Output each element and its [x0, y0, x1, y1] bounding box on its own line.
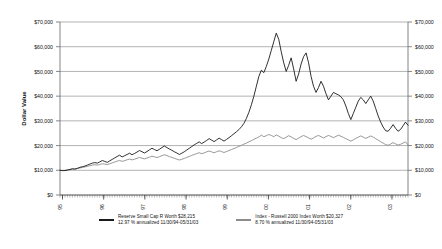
- series-line: [60, 33, 408, 171]
- legend-index-annualized: 8.70 % annualized 11/30/94-05/31/03: [255, 220, 343, 226]
- x-tick-label: 97: [140, 204, 146, 210]
- y-tick-label-left: $60,000: [34, 44, 53, 50]
- axis-ticks: [56, 22, 412, 200]
- legend-swatch-index: [236, 219, 251, 221]
- y-tick-label-right: $30,000: [415, 118, 434, 124]
- x-tick-label: 95: [57, 204, 63, 210]
- legend-text-index: Index - Russell 2000 Index Worth $20,327…: [255, 214, 343, 226]
- y-tick-label-left: $30,000: [34, 118, 53, 124]
- y-tick-label-left: $20,000: [34, 143, 53, 149]
- x-tick-label: 00: [263, 204, 269, 210]
- gridlines: [60, 22, 408, 195]
- x-tick-label: 98: [181, 204, 187, 210]
- y-axis-title: Dollar Value: [21, 91, 27, 126]
- growth-of-investment-chart: $70,000$60,000$50,000$40,000$30,000$20,0…: [0, 0, 442, 249]
- x-tick-label: 96: [99, 204, 105, 210]
- series-line: [60, 134, 408, 170]
- y-tick-label-right: $0: [415, 192, 421, 198]
- legend-entry-fund: Reserve Small Cap R Worth $28,215 12.97 …: [99, 214, 198, 226]
- y-axis-right-labels: $70,000$60,000$50,000$40,000$30,000$20,0…: [415, 19, 434, 198]
- y-tick-label-right: $60,000: [415, 44, 434, 50]
- y-tick-label-right: $50,000: [415, 69, 434, 75]
- y-tick-label-right: $10,000: [415, 167, 434, 173]
- legend-entry-index: Index - Russell 2000 Index Worth $20,327…: [236, 214, 343, 226]
- y-tick-label-left: $10,000: [34, 167, 53, 173]
- y-tick-label-left: $0: [47, 192, 53, 198]
- x-tick-label: 01: [305, 204, 311, 210]
- y-tick-label-left: $40,000: [34, 93, 53, 99]
- data-series-layer: [60, 33, 408, 171]
- y-axis-left-labels: $70,000$60,000$50,000$40,000$30,000$20,0…: [34, 19, 53, 198]
- chart-legend: Reserve Small Cap R Worth $28,215 12.97 …: [0, 214, 442, 244]
- legend-swatch-fund: [99, 219, 114, 221]
- y-axis-title-text: Dollar Value: [21, 91, 27, 126]
- y-tick-label-right: $40,000: [415, 93, 434, 99]
- x-axis-labels: 959697989900010203: [57, 204, 392, 210]
- x-tick-label: 03: [387, 204, 393, 210]
- legend-fund-annualized: 12.97 % annualized 11/30/94-05/31/03: [118, 220, 198, 226]
- x-tick-label: 99: [222, 204, 228, 210]
- y-tick-label-right: $20,000: [415, 143, 434, 149]
- y-tick-label-left: $50,000: [34, 69, 53, 75]
- x-tick-label: 02: [346, 204, 352, 210]
- chart-plot-area: $70,000$60,000$50,000$40,000$30,000$20,0…: [0, 0, 442, 249]
- y-tick-label-left: $70,000: [34, 19, 53, 25]
- legend-text-fund: Reserve Small Cap R Worth $28,215 12.97 …: [118, 214, 198, 226]
- y-tick-label-right: $70,000: [415, 19, 434, 25]
